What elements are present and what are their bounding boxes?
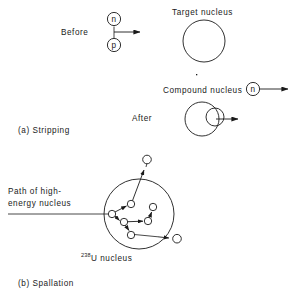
cascade-node-5 (149, 203, 156, 210)
figure-root: Before n p Target nucleus After Compound… (0, 0, 296, 297)
neutron-particle-label: n (111, 15, 116, 24)
compound-nucleus-circle (185, 102, 219, 136)
cascade-node-4 (144, 217, 151, 224)
cascade-node-6 (127, 231, 134, 238)
ejected-particle-lower-circle (173, 234, 182, 243)
target-nucleus-label: Target nucleus (172, 8, 233, 17)
absorbed-proton-circle (206, 108, 224, 126)
cascade-arrow-3-4 (128, 221, 143, 222)
path-label-line2: energy nucleus (8, 199, 71, 208)
after-label: After (132, 114, 152, 123)
cascade-arrow-1-2 (115, 206, 127, 212)
uranium-mass-number: 238 (81, 252, 91, 258)
ejected-particle-lower-tail (134, 235, 158, 237)
scan-speck (196, 74, 197, 75)
panel-a-before-group: Before n p Target nucleus (61, 8, 233, 62)
uranium-nucleus-text-group: 238U nucleus (81, 252, 132, 263)
cascade-node-3 (120, 218, 127, 225)
compound-nucleus-label: Compound nucleus (163, 86, 242, 95)
before-label: Before (61, 28, 88, 37)
cascade-node-1 (108, 210, 115, 217)
panel-b-spallation-group: Path of high- energy nucleus (8, 155, 181, 263)
cascade-arrow-3-6 (125, 225, 129, 230)
target-nucleus-circle (183, 20, 225, 62)
nuclear-reaction-diagram: Before n p Target nucleus After Compound… (0, 0, 296, 297)
path-label-line1: Path of high- (8, 187, 62, 196)
cascade-arrow-1-3 (115, 216, 120, 221)
cascade-node-2 (127, 200, 134, 207)
uranium-nucleus-label: U nucleus (91, 254, 132, 263)
caption-a: (a) Stripping (18, 126, 70, 135)
ejected-neutron-label: n (250, 85, 255, 94)
panel-a-after-group: After Compound nucleus n (132, 82, 288, 136)
ejected-particle-upper-circle (143, 155, 152, 164)
ejected-particle-upper-arrow (133, 170, 145, 201)
proton-particle-label: p (111, 41, 116, 50)
cascade-arrow-4-5 (150, 212, 152, 218)
ejected-particle-lower-arrow (158, 237, 169, 238)
caption-b: (b) Spallation (18, 279, 74, 288)
